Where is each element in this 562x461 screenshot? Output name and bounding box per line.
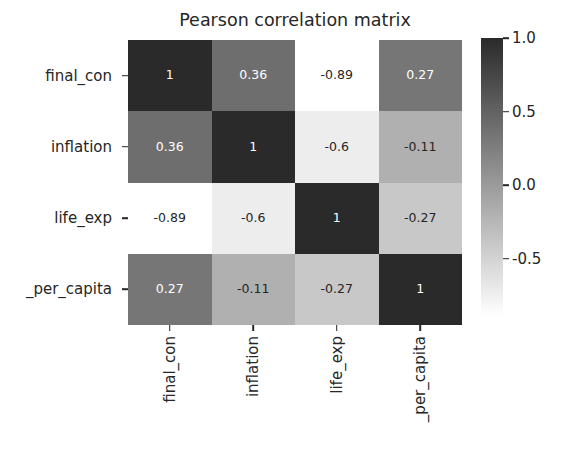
colorbar-tick-mark <box>503 258 509 260</box>
heatmap-cell-value: -0.89 <box>321 69 353 82</box>
heatmap-plot-area: 10.36-0.890.270.361-0.6-0.11-0.89-0.61-0… <box>128 40 462 325</box>
heatmap-cell-value: 1 <box>416 283 424 296</box>
heatmap-cell-value: 0.27 <box>156 283 184 296</box>
heatmap-cell: 0.27 <box>128 254 212 325</box>
heatmap-cell-value: -0.89 <box>154 212 186 225</box>
heatmap-cell: -0.11 <box>212 254 296 325</box>
y-tick-label: _per_capita <box>26 280 122 298</box>
colorbar-tick-label: -0.5 <box>512 250 541 268</box>
heatmap-cell: 1 <box>212 111 296 182</box>
heatmap-cell-value: 0.27 <box>406 69 434 82</box>
heatmap-cell-value: -0.11 <box>237 283 269 296</box>
heatmap-cell: -0.89 <box>295 40 379 111</box>
heatmap-cell-value: 0.36 <box>156 141 184 154</box>
colorbar-tick-label: 0.0 <box>512 176 536 194</box>
y-tick-mark <box>122 217 128 219</box>
y-tick-mark <box>122 75 128 77</box>
heatmap-cell: -0.6 <box>295 111 379 182</box>
heatmap-cell-value: -0.6 <box>241 212 265 225</box>
colorbar-tick-label: 0.5 <box>512 103 536 121</box>
heatmap-cell-value: -0.27 <box>404 212 436 225</box>
y-tick-label: inflation <box>51 138 122 156</box>
y-tick-mark <box>122 289 128 291</box>
heatmap-grid: 10.36-0.890.270.361-0.6-0.11-0.89-0.61-0… <box>128 40 462 325</box>
colorbar[interactable] <box>481 38 503 316</box>
heatmap-cell-value: -0.6 <box>325 141 349 154</box>
heatmap-cell-value: 1 <box>249 141 257 154</box>
y-tick-label: final_con <box>45 67 122 85</box>
heatmap-cell: -0.27 <box>295 254 379 325</box>
heatmap-cell-value: -0.11 <box>404 141 436 154</box>
page-title: Pearson correlation matrix <box>128 10 462 30</box>
heatmap-cell: -0.11 <box>379 111 463 182</box>
heatmap-cell-value: 1 <box>333 212 341 225</box>
x-tick-mark <box>336 325 338 331</box>
y-tick-mark <box>122 146 128 148</box>
x-tick-label: life_exp <box>328 336 346 394</box>
x-tick-label: inflation <box>244 336 262 397</box>
colorbar-gradient <box>481 38 503 316</box>
heatmap-cell: 1 <box>295 183 379 254</box>
colorbar-tick-label: 1.0 <box>512 29 536 47</box>
heatmap-cell: 0.36 <box>128 111 212 182</box>
heatmap-cell: 1 <box>128 40 212 111</box>
colorbar-tick-mark <box>503 37 509 39</box>
correlation-matrix-figure: Pearson correlation matrix 10.36-0.890.2… <box>0 0 562 461</box>
heatmap-cell-value: 0.36 <box>239 69 267 82</box>
heatmap-cell: -0.89 <box>128 183 212 254</box>
x-tick-mark <box>419 325 421 331</box>
heatmap-cell-value: -0.27 <box>321 283 353 296</box>
heatmap-cell: 0.36 <box>212 40 296 111</box>
heatmap-cell-value: 1 <box>166 69 174 82</box>
heatmap-cell: -0.27 <box>379 183 463 254</box>
y-tick-label: life_exp <box>54 209 122 227</box>
heatmap-cell: 1 <box>379 254 463 325</box>
x-tick-mark <box>169 325 171 331</box>
heatmap-cell: 0.27 <box>379 40 463 111</box>
x-tick-label: final_con <box>161 336 179 403</box>
colorbar-tick-mark <box>503 184 509 186</box>
x-tick-label: _per_capita <box>411 336 429 422</box>
x-tick-mark <box>252 325 254 331</box>
heatmap-cell: -0.6 <box>212 183 296 254</box>
colorbar-tick-mark <box>503 111 509 113</box>
